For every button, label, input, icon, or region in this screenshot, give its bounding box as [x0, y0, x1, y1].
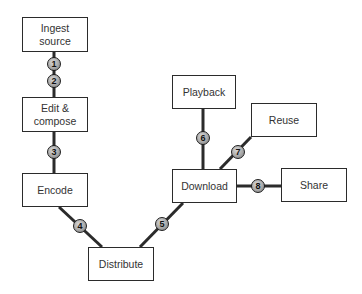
step-badge-7: 7 — [231, 145, 245, 159]
node-reuse: Reuse — [251, 103, 317, 137]
step-badge-6: 6 — [196, 131, 210, 145]
step-badge-2: 2 — [47, 74, 61, 88]
step-badge-5: 5 — [155, 217, 169, 231]
node-share: Share — [281, 168, 347, 202]
node-label: Share — [300, 179, 328, 192]
node-label: Playback — [183, 86, 226, 99]
node-label: Reuse — [269, 114, 299, 127]
node-edit-compose: Edit & compose — [22, 97, 88, 132]
node-label: Ingest source — [39, 22, 71, 48]
step-badge-8: 8 — [251, 179, 265, 193]
node-playback: Playback — [172, 75, 236, 109]
node-encode: Encode — [22, 173, 88, 207]
node-label: Edit & compose — [34, 102, 77, 128]
step-badge-4: 4 — [73, 219, 87, 233]
node-ingest-source: Ingest source — [22, 17, 88, 52]
node-label: Encode — [37, 184, 73, 197]
step-badge-3: 3 — [47, 145, 61, 159]
node-label: Download — [181, 180, 228, 193]
workflow-diagram: Ingest source Edit & compose Encode Dist… — [0, 0, 362, 294]
node-label: Distribute — [99, 258, 143, 271]
node-distribute: Distribute — [88, 247, 154, 281]
node-download: Download — [172, 169, 237, 203]
step-badge-1: 1 — [47, 57, 61, 71]
